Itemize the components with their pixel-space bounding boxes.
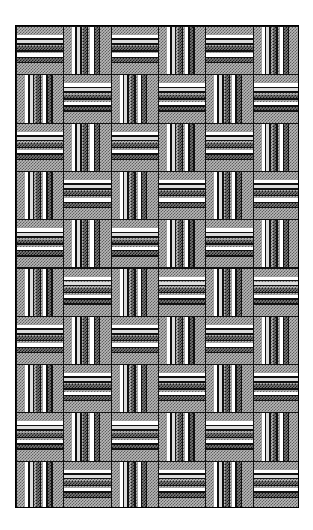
stripe-band [28, 75, 30, 122]
stripe-band [142, 172, 146, 219]
stripe-band [206, 255, 252, 256]
stripe-band [288, 317, 289, 364]
stripe-band [217, 462, 219, 508]
weave-tile [205, 26, 253, 75]
stripe-group [254, 124, 299, 171]
weave-tile [111, 461, 159, 508]
stripe-band [229, 172, 230, 219]
weave-tile [111, 219, 159, 268]
stripe-band [254, 280, 299, 282]
stripe-band [206, 333, 252, 335]
stripe-band [40, 365, 41, 412]
stripe-band [222, 462, 224, 508]
weave-tile [205, 364, 253, 413]
stripe-band [188, 317, 189, 364]
stripe-band [170, 317, 172, 364]
stripe-band [112, 437, 158, 438]
stripe-group [112, 220, 158, 267]
stripe-group [206, 27, 252, 74]
stripe-band [254, 198, 299, 201]
stripe-band [284, 124, 288, 171]
stripe-group [112, 462, 158, 508]
stripe-band [206, 443, 252, 444]
stripe-band [217, 269, 219, 316]
stripe-band [112, 150, 158, 153]
weave-tile [63, 26, 111, 75]
stripe-band [235, 172, 236, 219]
stripe-band [112, 251, 158, 255]
stripe-group [64, 124, 110, 171]
stripe-band [193, 220, 194, 267]
stripe-band [185, 317, 188, 364]
stripe-band [99, 27, 100, 74]
stripe-band [280, 317, 283, 364]
stripe-band [120, 462, 123, 508]
stripe-band [206, 236, 252, 238]
stripe-band [51, 172, 52, 219]
stripe-group [159, 220, 205, 267]
stripe-band [167, 220, 170, 267]
stripe-band [206, 40, 252, 43]
stripe-band [254, 88, 299, 91]
weave-tile [111, 412, 159, 461]
stripe-band [185, 220, 188, 267]
stripe-band [131, 269, 135, 316]
weave-tile [111, 316, 159, 365]
stripe-band [229, 462, 230, 508]
stripe-band [206, 429, 252, 431]
weave-tile [158, 364, 206, 413]
stripe-band [83, 124, 87, 171]
stripe-band [87, 413, 88, 460]
stripe-band [64, 188, 110, 190]
weave-tile [158, 268, 206, 317]
stripe-band [90, 317, 93, 364]
stripe-band [87, 220, 88, 267]
stripe-band [112, 53, 158, 56]
stripe-band [232, 269, 235, 316]
stripe-band [159, 488, 205, 491]
stripe-band [280, 413, 283, 460]
stripe-band [17, 250, 63, 251]
stripe-band [112, 243, 158, 244]
stripe-group [64, 269, 110, 316]
stripe-band [273, 27, 277, 74]
stripe-band [64, 107, 110, 111]
stripe-band [17, 340, 63, 341]
stripe-group [254, 462, 299, 508]
weave-tile [158, 461, 206, 508]
stripe-band [159, 491, 205, 492]
stripe-band [237, 75, 241, 122]
stripe-band [206, 62, 252, 63]
stripe-band [64, 295, 110, 298]
stripe-group [17, 413, 63, 460]
stripe-band [30, 172, 33, 219]
stripe-band [254, 102, 299, 105]
stripe-band [206, 137, 252, 140]
stripe-band [283, 220, 284, 267]
stripe-band [206, 347, 252, 348]
stripe-band [72, 220, 75, 267]
stripe-band [112, 43, 158, 45]
stripe-band [112, 147, 158, 148]
stripe-band [280, 124, 283, 171]
stripe-band [64, 388, 110, 389]
stripe-group [64, 75, 110, 122]
stripe-band [178, 220, 182, 267]
stripe-band [254, 288, 299, 292]
stripe-band [276, 317, 277, 364]
stripe-group [206, 269, 252, 316]
stripe-group [254, 172, 299, 219]
stripe-band [120, 172, 123, 219]
stripe-band [64, 185, 110, 188]
stripe-band [80, 220, 82, 267]
stripe-band [159, 396, 205, 400]
stripe-band [206, 243, 252, 244]
stripe-band [265, 317, 267, 364]
stripe-band [142, 365, 146, 412]
stripe-band [112, 429, 158, 431]
stripe-band [17, 325, 63, 328]
stripe-band [17, 57, 63, 58]
stripe-band [138, 172, 141, 219]
stripe-band [159, 481, 205, 485]
stripe-group [159, 462, 205, 508]
